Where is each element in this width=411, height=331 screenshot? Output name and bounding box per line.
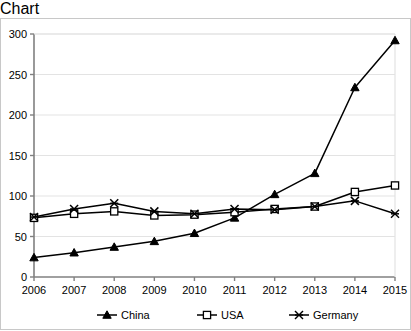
y-tick-label: 0	[21, 271, 27, 283]
data-point-usa	[111, 208, 118, 215]
data-point-china	[270, 190, 278, 197]
series-line-usa	[34, 185, 395, 217]
chart-figure: 0501001502002503002006200720082009201020…	[0, 18, 411, 330]
series-line-china	[34, 40, 395, 257]
data-point-china	[391, 36, 399, 43]
series-usa	[30, 182, 398, 222]
x-tick-label: 2015	[383, 284, 407, 296]
line-chart: 0501001502002503002006200720082009201020…	[1, 19, 411, 331]
y-tick-label: 50	[15, 231, 27, 243]
series-china	[30, 36, 399, 261]
y-tick-label: 250	[9, 69, 27, 81]
legend-label: Germany	[313, 309, 359, 321]
legend-label: USA	[221, 309, 244, 321]
chart-legend: ChinaUSAGermany	[97, 309, 359, 321]
data-point-usa	[351, 188, 358, 195]
x-tick-label: 2010	[182, 284, 206, 296]
axes: 0501001502002503002006200720082009201020…	[9, 28, 408, 296]
legend-item-usa[interactable]: USA	[197, 309, 244, 321]
data-point-usa	[391, 182, 398, 189]
y-tick-label: 200	[9, 109, 27, 121]
x-tick-label: 2008	[102, 284, 126, 296]
legend-item-china[interactable]: China	[97, 309, 151, 321]
y-tick-label: 100	[9, 190, 27, 202]
data-point-china	[311, 169, 319, 176]
x-tick-label: 2006	[22, 284, 46, 296]
gridlines	[34, 34, 395, 237]
x-tick-label: 2007	[62, 284, 86, 296]
y-tick-label: 150	[9, 150, 27, 162]
x-tick-label: 2014	[343, 284, 367, 296]
legend-item-germany[interactable]: Germany	[289, 309, 359, 321]
x-tick-label: 2012	[262, 284, 286, 296]
y-tick-label: 300	[9, 28, 27, 40]
series-line-germany	[34, 201, 395, 217]
x-tick-label: 2009	[142, 284, 166, 296]
legend-marker	[203, 311, 210, 318]
x-tick-label: 2011	[223, 284, 247, 296]
x-tick-label: 2013	[303, 284, 327, 296]
legend-label: China	[121, 309, 151, 321]
series-germany	[30, 197, 399, 221]
